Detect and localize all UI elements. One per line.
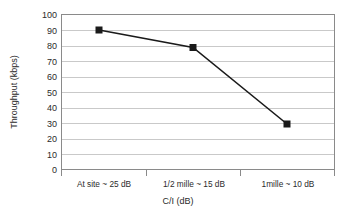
x-axis-category-labels: At site ~ 25 dB 1/2 mille ~ 15 dB 1mille… (77, 179, 315, 189)
y-tick-80: 80 (47, 41, 57, 51)
y-tick-50: 50 (47, 88, 57, 98)
y-tick-20: 20 (47, 134, 57, 144)
x-axis-title: C/I (dB) (162, 196, 193, 206)
data-point-marker[interactable] (190, 44, 197, 51)
x-category-label-2: 1mille ~ 10 dB (262, 179, 315, 189)
y-tick-30: 30 (47, 119, 57, 129)
y-axis-title: Throughput (kbps) (9, 55, 19, 129)
y-tick-70: 70 (47, 57, 57, 67)
y-tick-100: 100 (42, 10, 57, 20)
y-tick-90: 90 (47, 26, 57, 36)
data-point-marker[interactable] (96, 27, 103, 34)
data-point-marker[interactable] (284, 121, 291, 128)
throughput-vs-ci-line-chart: 100 90 80 70 60 50 40 30 20 10 0 (0, 0, 354, 219)
y-tick-0: 0 (52, 165, 57, 175)
x-category-label-1: 1/2 mille ~ 15 dB (163, 179, 225, 189)
y-tick-40: 40 (47, 103, 57, 113)
y-tick-10: 10 (47, 150, 57, 160)
x-category-label-0: At site ~ 25 dB (77, 179, 132, 189)
y-tick-60: 60 (47, 72, 57, 82)
chart-container: 100 90 80 70 60 50 40 30 20 10 0 (0, 0, 354, 219)
